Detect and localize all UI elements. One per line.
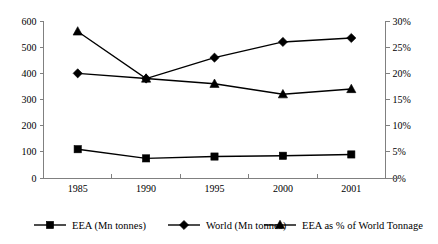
category-axis-tick-label: 1995 [205, 183, 225, 194]
data-point-marker-square [211, 153, 218, 160]
left-axis-tick-label: 500 [22, 42, 37, 53]
data-point-marker-diamond [73, 69, 82, 78]
left-axis-tick-label: 200 [22, 120, 37, 131]
left-axis-tick-label: 100 [22, 146, 37, 157]
right-axis-tick-label: 30% [393, 16, 411, 27]
legend-item-label: EEA (Mn tonnes) [72, 220, 147, 232]
data-point-marker-square [74, 146, 81, 153]
chart-legend: EEA (Mn tonnes)World (Mn tonnes)EEA as %… [34, 220, 423, 232]
category-axis-tick-label: 2000 [273, 183, 293, 194]
right-axis-tick-label: 20% [393, 68, 411, 79]
line-chart: 0100200300400500600 0%5%10%15%20%25%30% … [0, 0, 438, 244]
data-point-marker-square [279, 152, 286, 159]
data-point-marker-diamond [278, 37, 287, 46]
category-axis-tick-label: 1990 [136, 183, 156, 194]
right-axis-tick-label: 15% [393, 94, 411, 105]
right-percent-axis: 0%5%10%15%20%25%30% [386, 16, 411, 184]
right-axis-tick-label: 5% [393, 146, 406, 157]
data-point-marker-triangle [347, 84, 356, 92]
data-point-marker-triangle [73, 27, 82, 35]
left-axis-tick-label: 0 [32, 173, 37, 184]
category-axis-tick-label: 1985 [68, 183, 88, 194]
series-layer [73, 27, 356, 162]
left-axis-tick-label: 300 [22, 94, 37, 105]
data-point-marker-diamond [347, 33, 356, 42]
data-point-marker-diamond [210, 53, 219, 62]
data-point-marker-square [46, 221, 53, 228]
legend-item: EEA as % of World Tonnage [264, 220, 423, 231]
left-axis-tick-label: 600 [22, 16, 37, 27]
legend-item: EEA (Mn tonnes) [34, 220, 147, 232]
left-axis-tick-label: 400 [22, 68, 37, 79]
right-axis-tick-label: 25% [393, 42, 411, 53]
legend-item-label: EEA as % of World Tonnage [302, 220, 423, 231]
right-axis-tick-label: 10% [393, 120, 411, 131]
category-axis-tick-label: 2001 [341, 183, 361, 194]
left-value-axis: 0100200300400500600 [22, 16, 44, 184]
category-axis: 19851990199520002001 [44, 174, 400, 194]
data-point-marker-diamond [179, 220, 188, 229]
data-point-marker-square [348, 151, 355, 158]
data-point-marker-square [143, 155, 150, 162]
chart-container: 0100200300400500600 0%5%10%15%20%25%30% … [0, 0, 438, 244]
